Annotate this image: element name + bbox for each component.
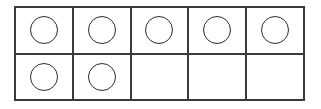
counter-circle-icon xyxy=(261,16,289,44)
ten-frame-cell-7[interactable] xyxy=(74,55,132,100)
ten-frame-cell-10[interactable] xyxy=(247,55,303,100)
ten-frame-cell-5[interactable] xyxy=(247,8,303,53)
ten-frame-cell-4[interactable] xyxy=(189,8,247,53)
ten-frame-bottom-row xyxy=(16,55,303,100)
counter-circle-icon xyxy=(203,16,231,44)
ten-frame-cell-2[interactable] xyxy=(74,8,132,53)
counter-circle-icon xyxy=(88,16,116,44)
ten-frame-cell-8[interactable] xyxy=(132,55,190,100)
figure-canvas xyxy=(0,0,321,109)
counter-circle-icon xyxy=(88,63,116,91)
ten-frame-cell-3[interactable] xyxy=(132,8,190,53)
ten-frame-cell-9[interactable] xyxy=(189,55,247,100)
counter-circle-icon xyxy=(145,16,173,44)
counter-circle-icon xyxy=(30,16,58,44)
counter-circle-icon xyxy=(30,63,58,91)
ten-frame-cell-1[interactable] xyxy=(16,8,74,53)
ten-frame-top-row xyxy=(16,8,303,55)
ten-frame-grid xyxy=(14,6,305,101)
ten-frame-cell-6[interactable] xyxy=(16,55,74,100)
